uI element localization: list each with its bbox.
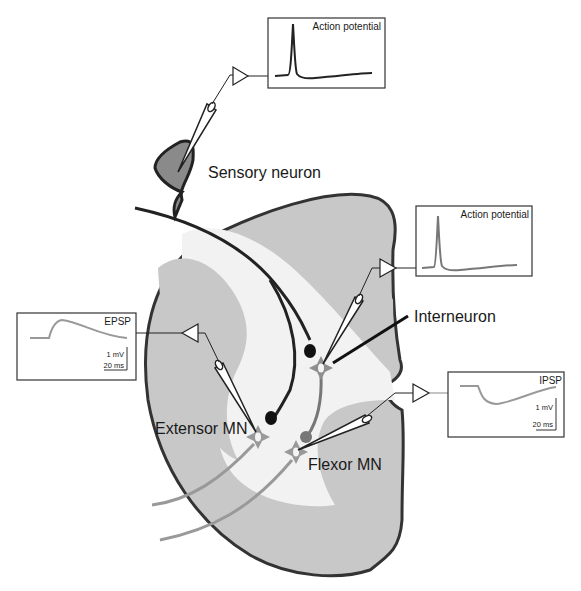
- amplifier-icon: [233, 67, 248, 85]
- label-extensor-mn: Extensor MN: [155, 420, 247, 437]
- recording-interneuron: Action potential: [416, 206, 532, 276]
- terminal-interneuron: [304, 344, 316, 358]
- recording-title: Action potential: [313, 21, 381, 32]
- label-flexor-mn: Flexor MN: [308, 456, 382, 473]
- recording-flexor: IPSP 1 mV 20 ms: [448, 372, 564, 437]
- scale-time: 20 ms: [533, 420, 554, 429]
- label-sensory-neuron: Sensory neuron: [208, 164, 321, 181]
- scale-time: 20 ms: [104, 361, 125, 370]
- amplifier-icon: [413, 384, 429, 402]
- scale-voltage: 1 mV: [535, 403, 553, 412]
- recording-title: Action potential: [461, 209, 529, 220]
- recording-sensory: Action potential: [268, 18, 385, 88]
- recording-title: IPSP: [539, 375, 562, 386]
- spinal-cord: [145, 194, 403, 575]
- scale-voltage: 1 mV: [106, 350, 124, 359]
- terminal-extensor: [265, 411, 277, 425]
- recording-extensor: EPSP 1 mV 20 ms: [17, 313, 136, 380]
- recording-title: EPSP: [104, 316, 131, 327]
- label-interneuron: Interneuron: [414, 308, 496, 325]
